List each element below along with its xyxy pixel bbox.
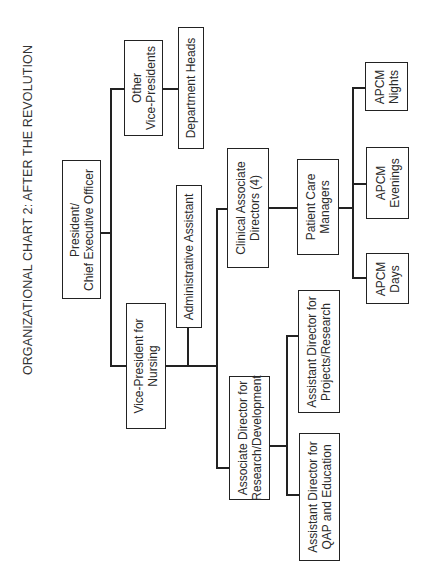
node-label: Patient Care xyxy=(304,174,318,241)
node-label: Vice-Presidents xyxy=(144,46,158,130)
connector xyxy=(110,88,112,366)
connector xyxy=(269,445,287,447)
node-label: Days xyxy=(388,261,402,296)
connector xyxy=(338,207,353,209)
node-label: Managers xyxy=(318,174,332,241)
node-other-vice-presidents: OtherVice-Presidents xyxy=(124,40,163,136)
chart-title: ORGANIZATIONAL CHART 2: AFTER THE REVOLU… xyxy=(21,45,35,375)
connector xyxy=(110,88,124,90)
node-label: Nights xyxy=(387,69,401,104)
node-assistant-director-qap: Assistant Director forQAP and Education xyxy=(299,433,340,561)
connector xyxy=(165,365,217,367)
connector xyxy=(268,207,297,209)
node-label: Projects/Research xyxy=(319,296,333,407)
node-label: Assistant Director for xyxy=(305,296,319,407)
connector xyxy=(216,208,227,210)
node-label: Department Heads xyxy=(184,38,198,139)
node-label: Nursing xyxy=(146,318,160,413)
connector xyxy=(110,365,126,367)
node-administrative-assistant: Administrative Assistant xyxy=(176,185,202,328)
node-label: Clinical Associate xyxy=(234,161,248,254)
node-clinical-associate-directors: Clinical AssociateDirectors (4) xyxy=(227,148,269,268)
connector xyxy=(216,208,218,468)
node-label: Evenings xyxy=(388,158,402,207)
connector xyxy=(216,467,229,469)
connector xyxy=(162,88,178,90)
node-label: Chief Executive Officer xyxy=(82,169,96,291)
node-label: QAP and Education xyxy=(320,441,334,552)
connector xyxy=(352,277,366,279)
node-label: Vice-President for xyxy=(132,318,146,413)
connector xyxy=(352,183,366,185)
node-president: President/Chief Executive Officer xyxy=(62,160,101,299)
node-label: President/ xyxy=(68,169,82,291)
node-label: Administrative Assistant xyxy=(182,193,196,320)
node-label: Research/Development xyxy=(250,375,264,500)
node-apcm-evenings: APCMEvenings xyxy=(366,147,409,219)
connector xyxy=(286,335,298,337)
node-assistant-director-projects: Assistant Director forProjects/Research xyxy=(298,290,340,413)
node-label: Associate Director for xyxy=(236,375,250,500)
node-label: Directors (4) xyxy=(248,161,262,254)
node-vp-nursing: Vice-President forNursing xyxy=(126,303,166,429)
node-label: APCM xyxy=(373,69,387,104)
node-label: Other xyxy=(130,46,144,130)
node-label: APCM xyxy=(374,158,388,207)
node-department-heads: Department Heads xyxy=(178,27,204,149)
node-label: APCM xyxy=(374,261,388,296)
connector xyxy=(286,335,288,495)
connector xyxy=(286,494,299,496)
node-associate-director-research: Associate Director forResearch/Developme… xyxy=(229,376,270,500)
node-patient-care-managers: Patient CareManagers xyxy=(297,159,339,255)
node-label: Assistant Director for xyxy=(306,441,320,552)
connector xyxy=(187,327,189,366)
connector xyxy=(352,87,365,89)
node-apcm-days: APCMDays xyxy=(366,253,409,304)
node-apcm-nights: APCMNights xyxy=(365,62,408,111)
